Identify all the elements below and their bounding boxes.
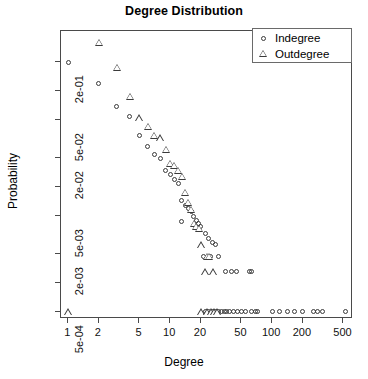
x-tick-label: 200 (293, 326, 311, 338)
data-point-outdegree (209, 268, 217, 275)
data-point-indegree (239, 309, 244, 314)
y-tick (55, 90, 60, 91)
legend: Indegree Outdegree (252, 28, 352, 63)
data-point-indegree (66, 60, 71, 65)
degree-distribution-figure: Degree Distribution 125102050100200500 2… (0, 0, 368, 379)
data-point-indegree (179, 219, 184, 224)
data-point-indegree (285, 309, 290, 314)
data-point-indegree (235, 309, 240, 314)
data-point-outdegree (166, 160, 174, 167)
data-point-indegree (234, 269, 239, 274)
y-tick (55, 119, 60, 120)
data-point-indegree (196, 221, 201, 226)
data-point-indegree (206, 309, 211, 314)
data-point-indegree (163, 168, 168, 173)
data-point-outdegree (195, 225, 203, 232)
data-point-indegree (183, 203, 188, 208)
data-point-indegree (158, 156, 163, 161)
y-tick (55, 157, 60, 158)
legend-entry-outdegree: Outdegree (253, 46, 351, 62)
x-tick-label: 20 (194, 326, 206, 338)
data-point-indegree (216, 309, 221, 314)
chart-title: Degree Distribution (0, 4, 368, 18)
data-point-outdegree (207, 308, 215, 315)
data-point-indegree (247, 269, 252, 274)
x-tick-label: 50 (234, 326, 246, 338)
data-point-outdegree (213, 308, 221, 315)
data-point-indegree (203, 309, 208, 314)
data-point-indegree (168, 172, 173, 177)
y-tick (55, 253, 60, 254)
data-point-indegree (194, 218, 199, 223)
y-tick (55, 186, 60, 187)
data-point-indegree (343, 309, 348, 314)
x-tick (67, 318, 68, 323)
data-point-indegree (320, 309, 325, 314)
data-point-outdegree (150, 132, 158, 139)
data-point-outdegree (203, 308, 211, 315)
data-points-layer (61, 31, 351, 317)
data-point-indegree (201, 254, 206, 259)
data-point-indegree (176, 181, 181, 186)
data-point-indegree (127, 114, 132, 119)
x-tick (98, 318, 99, 323)
legend-label-indegree: Indegree (275, 30, 320, 46)
data-point-indegree (223, 269, 228, 274)
x-tick (169, 318, 170, 323)
data-point-outdegree (95, 39, 103, 46)
data-point-outdegree (156, 134, 164, 141)
data-point-outdegree (144, 123, 152, 130)
y-axis-title: Probability (6, 131, 20, 231)
x-tick (200, 318, 201, 323)
data-point-outdegree (184, 199, 192, 206)
y-tick (55, 282, 60, 283)
data-point-indegree (179, 198, 184, 203)
data-point-indegree (300, 309, 305, 314)
data-point-indegree (96, 81, 101, 86)
data-point-outdegree (197, 308, 205, 315)
data-point-indegree (219, 309, 224, 314)
data-point-indegree (206, 236, 211, 241)
data-point-indegree (114, 104, 119, 109)
data-point-indegree (210, 240, 215, 245)
data-point-outdegree (203, 253, 211, 260)
data-point-outdegree (64, 308, 72, 315)
data-point-indegree (315, 309, 320, 314)
data-point-indegree (198, 224, 203, 229)
data-point-outdegree (181, 189, 189, 196)
y-tick (55, 61, 60, 62)
data-point-outdegree (162, 146, 170, 153)
data-point-outdegree (192, 223, 200, 230)
data-point-indegree (213, 242, 218, 247)
data-point-indegree (224, 309, 229, 314)
data-point-indegree (186, 206, 191, 211)
data-point-indegree (253, 309, 258, 314)
data-point-outdegree (170, 162, 178, 169)
x-tick-label: 2 (95, 326, 101, 338)
y-tick (55, 215, 60, 216)
x-tick-label: 10 (163, 326, 175, 338)
data-point-indegree (249, 309, 254, 314)
data-point-indegree (189, 209, 194, 214)
x-tick-label: 500 (333, 326, 351, 338)
x-tick (302, 318, 303, 323)
x-tick (342, 318, 343, 323)
data-point-outdegree (126, 93, 134, 100)
data-point-outdegree (201, 268, 209, 275)
y-tick-label: 5e-02 (73, 133, 85, 161)
data-point-outdegree (187, 206, 195, 213)
data-point-indegree (191, 214, 196, 219)
legend-entry-indegree: Indegree (253, 30, 351, 46)
data-point-indegree (145, 144, 150, 149)
data-point-indegree (222, 309, 227, 314)
data-point-outdegree (113, 64, 121, 71)
plot-area (60, 30, 352, 318)
data-point-outdegree (190, 220, 198, 227)
legend-label-outdegree: Outdegree (275, 46, 329, 62)
x-tick-label: 1 (64, 326, 70, 338)
circle-icon (253, 30, 275, 46)
data-point-indegree (227, 309, 232, 314)
y-tick-label: 5e-04 (73, 325, 85, 353)
y-tick-label: 2e-02 (73, 171, 85, 199)
x-axis-title: Degree (0, 355, 368, 369)
